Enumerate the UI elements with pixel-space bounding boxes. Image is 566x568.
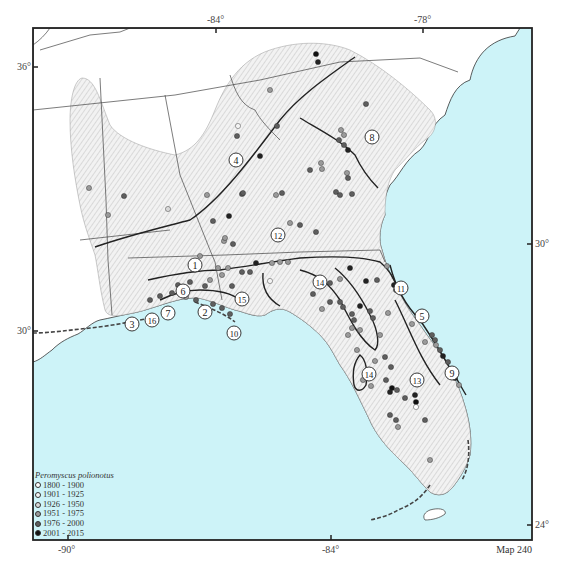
- legend-item: 2001 - 2015: [35, 529, 114, 539]
- subspecies-number: 6: [181, 286, 186, 297]
- subspecies-number: 13: [413, 376, 422, 386]
- subspecies-number: 12: [274, 231, 283, 241]
- tick-label-bottom-84: -84°: [322, 544, 339, 555]
- circle-icon: [35, 482, 41, 488]
- tick-label-top-78: -78°: [414, 14, 431, 25]
- tick-label-top-84: -84°: [207, 14, 224, 25]
- subspecies-number: 15: [238, 295, 247, 305]
- tick-label-bottom-90: -90°: [58, 544, 75, 555]
- subspecies-number: 8: [370, 132, 375, 143]
- subspecies-number: 10: [230, 329, 239, 339]
- circle-icon: [35, 511, 41, 517]
- circle-icon: [35, 521, 41, 527]
- circle-icon: [35, 502, 41, 508]
- subspecies-number: 14: [365, 370, 374, 380]
- tick-label-left-36: 36°: [17, 61, 31, 72]
- circle-icon: [35, 492, 41, 498]
- subspecies-number: 14: [316, 278, 325, 288]
- map-number: Map 240: [496, 544, 532, 555]
- legend: Peromyscus polionotus 1800 - 1900 1901 -…: [35, 471, 114, 538]
- subspecies-number: 9: [450, 368, 455, 379]
- tick-label-right-30: 30°: [535, 238, 549, 249]
- tick-label-left-30: 30°: [17, 325, 31, 336]
- subspecies-number: 1: [193, 260, 198, 271]
- subspecies-number: 3: [130, 319, 135, 330]
- subspecies-number: 11: [397, 284, 405, 294]
- subspecies-number: 5: [420, 311, 425, 322]
- circle-icon: [35, 530, 41, 536]
- tick-label-right-24: 24°: [535, 519, 549, 530]
- subspecies-number: 4: [234, 155, 239, 166]
- subspecies-number: 16: [148, 316, 157, 326]
- subspecies-number: 2: [203, 307, 208, 318]
- subspecies-number: 7: [166, 308, 171, 319]
- legend-label: 2001 - 2015: [43, 529, 84, 539]
